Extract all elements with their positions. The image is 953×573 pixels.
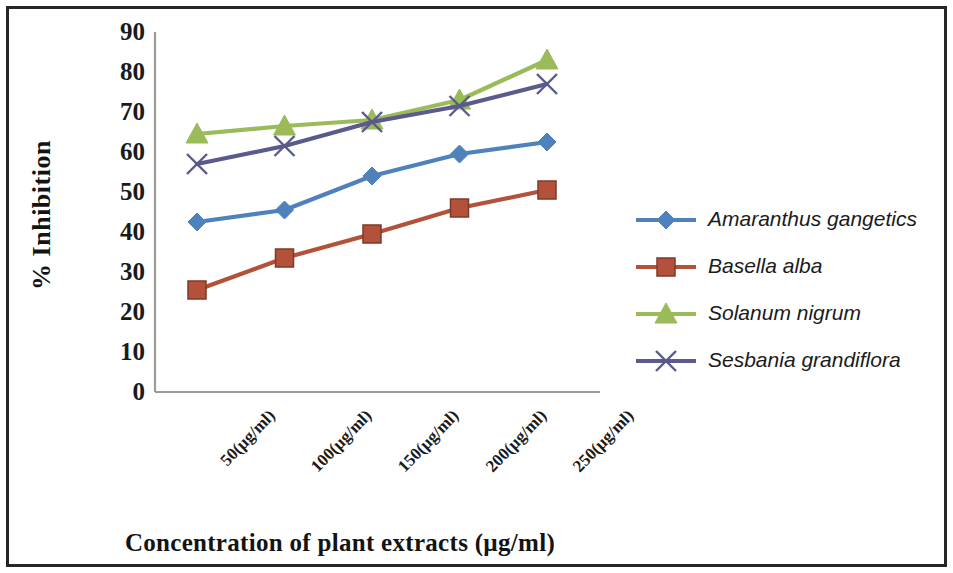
y-axis-title: % Inhibition <box>27 95 57 335</box>
series-4 <box>187 74 557 174</box>
data-point-square <box>657 258 675 276</box>
legend-label: Amaranthus gangetics <box>708 207 917 231</box>
legend-symbol <box>634 255 698 279</box>
plot-area <box>0 0 953 573</box>
y-tick-label: 90 <box>99 19 145 44</box>
data-point-diamond <box>451 145 469 163</box>
data-point-square <box>276 249 294 267</box>
data-point-diamond <box>276 201 294 219</box>
chart-figure: 0102030405060708090 50(µg/ml)100(µg/ml)1… <box>0 0 953 573</box>
data-point-diamond <box>657 211 675 229</box>
y-tick-label: 80 <box>99 59 145 84</box>
legend-marker-icon <box>634 349 698 373</box>
y-tick-label: 0 <box>99 379 145 404</box>
y-tick-label: 70 <box>99 99 145 124</box>
y-tick-label: 60 <box>99 139 145 164</box>
legend-marker-icon <box>634 255 698 279</box>
series-2 <box>188 181 556 299</box>
legend-label: Solanum nigrum <box>708 301 861 325</box>
legend-label: Sesbania grandiflora <box>708 348 901 372</box>
data-point-square <box>188 281 206 299</box>
legend-marker-icon <box>634 302 698 326</box>
legend-symbol <box>634 302 698 326</box>
y-tick-label: 30 <box>99 259 145 284</box>
series-line <box>197 84 547 164</box>
y-tick-label: 40 <box>99 219 145 244</box>
data-point-triangle <box>536 49 558 69</box>
y-tick-label: 50 <box>99 179 145 204</box>
legend-marker-icon <box>634 208 698 232</box>
data-point-diamond <box>188 213 206 231</box>
legend-symbol <box>634 349 698 373</box>
y-tick-label: 20 <box>99 299 145 324</box>
legend-symbol <box>634 208 698 232</box>
data-point-square <box>538 181 556 199</box>
data-point-square <box>363 225 381 243</box>
data-point-diamond <box>538 133 556 151</box>
data-point-diamond <box>363 167 381 185</box>
data-point-square <box>451 199 469 217</box>
y-tick-label: 10 <box>99 339 145 364</box>
legend-label: Basella alba <box>708 254 822 278</box>
series-1 <box>188 133 556 231</box>
x-axis-title: Concentration of plant extracts (µg/ml) <box>80 529 600 557</box>
